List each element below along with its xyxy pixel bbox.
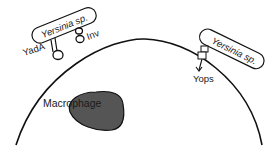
inv-label: Inv — [85, 27, 101, 42]
macrophage-label: Macrophage — [43, 97, 102, 109]
yada-label: YadA — [21, 40, 46, 58]
inv-protein — [76, 28, 85, 43]
type3-secretion-needle — [196, 46, 208, 71]
yada-adhesin — [51, 38, 63, 60]
yersinia-macrophage-diagram: Macrophage Yersinia sp. YadA Inv Yersini… — [0, 0, 278, 158]
yops-label: Yops — [193, 73, 214, 84]
